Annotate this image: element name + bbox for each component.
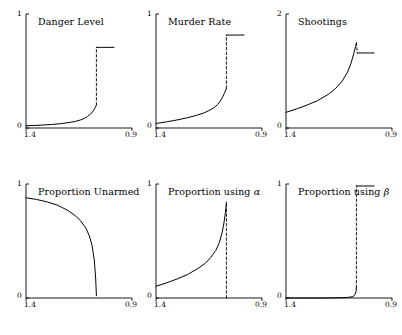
x-min-label: 1.4 <box>284 131 296 139</box>
y-min-label: 0 <box>17 122 22 130</box>
x-max-label: 0.9 <box>385 301 397 309</box>
panel-3: Shootings201.40.9 <box>260 0 394 167</box>
panel-title-text: Proportion using <box>168 186 254 197</box>
panel-title-3: Shootings <box>298 17 347 27</box>
y-max-label: 1 <box>277 180 282 188</box>
panel-title-5: Proportion using α <box>168 187 260 197</box>
panel-title-2: Murder Rate <box>168 17 231 27</box>
panel-4: Proportion Unarmed101.40.9 <box>0 170 134 335</box>
series-lower-branch <box>26 105 96 126</box>
y-min-label: 0 <box>147 292 152 300</box>
x-min-label: 1.4 <box>24 131 36 139</box>
panel-6: Proportion using β101.40.9 <box>260 170 394 335</box>
series-proportion-unarmed <box>26 198 96 296</box>
panel-title-symbol: β <box>384 186 390 197</box>
panel-title-1: Danger Level <box>38 17 104 27</box>
y-max-label: 1 <box>17 180 22 188</box>
y-min-label: 0 <box>277 292 282 300</box>
panel-2: Murder Rate101.40.9 <box>130 0 264 167</box>
series-lower-branch <box>286 43 356 112</box>
y-max-label: 1 <box>17 10 22 18</box>
panel-1: Danger Level101.40.9 <box>0 0 134 167</box>
panel-title-6: Proportion using β <box>298 187 389 197</box>
x-min-label: 1.4 <box>24 301 36 309</box>
x-max-label: 0.9 <box>385 131 397 139</box>
y-min-label: 0 <box>17 292 22 300</box>
panel-5: Proportion using α101.40.9 <box>130 170 264 335</box>
y-min-label: 0 <box>147 122 152 130</box>
series-lower-branch <box>286 288 356 298</box>
x-min-label: 1.4 <box>154 131 166 139</box>
series-lower-branch <box>156 88 226 123</box>
x-min-label: 1.4 <box>154 301 166 309</box>
panel-title-4: Proportion Unarmed <box>38 187 140 197</box>
y-max-label: 1 <box>147 10 152 18</box>
x-min-label: 1.4 <box>284 301 296 309</box>
y-min-label: 0 <box>277 122 282 130</box>
y-max-label: 1 <box>147 180 152 188</box>
y-max-label: 2 <box>277 10 282 18</box>
series-proportion-using-alpha <box>156 202 226 286</box>
figure-panel-grid: Danger Level101.40.9Murder Rate101.40.9S… <box>0 0 402 335</box>
series-jump <box>356 43 357 53</box>
panel-title-text: Proportion using <box>298 186 384 197</box>
